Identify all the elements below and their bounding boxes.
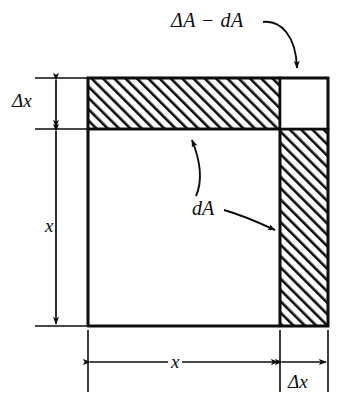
left-x-label: x bbox=[43, 215, 55, 236]
left-delta-x-label: Δx bbox=[12, 91, 32, 110]
delta-a-minus-da-arrow bbox=[263, 22, 297, 68]
right-hatched-strip bbox=[280, 129, 328, 326]
left-dimension-group bbox=[35, 78, 88, 326]
area-differential-diagram: ΔA − dA dA Δx x x Δx bbox=[0, 0, 342, 414]
delta-a-minus-da-label: ΔA − dA bbox=[171, 10, 244, 30]
inner-square-region bbox=[88, 129, 280, 326]
top-hatched-strip bbox=[88, 78, 280, 129]
corner-square-region bbox=[280, 78, 328, 129]
da-label: dA bbox=[192, 198, 214, 218]
bottom-x-label: x bbox=[168, 352, 182, 371]
bottom-delta-x-label: Δx bbox=[288, 372, 308, 391]
